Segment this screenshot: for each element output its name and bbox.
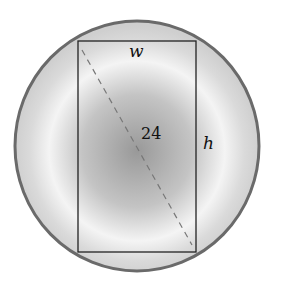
diagram-canvas: w 24 h xyxy=(0,0,283,283)
height-label: h xyxy=(203,133,214,153)
width-label: w xyxy=(129,41,144,61)
diagonal-label: 24 xyxy=(141,124,161,143)
